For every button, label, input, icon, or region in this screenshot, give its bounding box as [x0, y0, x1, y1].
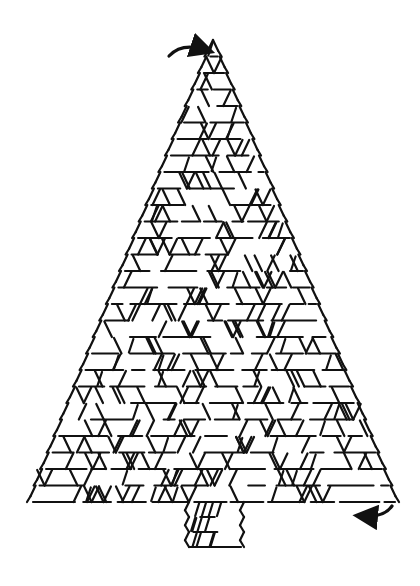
maze-wall: [217, 503, 221, 516]
maze-wall: [197, 533, 201, 546]
maze-wall: [203, 140, 210, 156]
tree-edge-left: [96, 321, 101, 332]
maze-wall: [223, 91, 230, 107]
trunk-edge-right: [240, 517, 244, 525]
maze-wall: [320, 422, 325, 436]
maze-wall: [263, 190, 270, 206]
maze-wall: [275, 272, 283, 288]
maze-wall: [191, 355, 198, 371]
tree-edge-left: [123, 255, 128, 266]
tree-edge-left: [57, 420, 62, 431]
trunk-edge-right: [240, 502, 244, 510]
maze-wall: [184, 158, 189, 172]
exit-arrow-icon: [362, 506, 392, 516]
maze-wall: [147, 421, 154, 437]
tree-edge-left: [31, 486, 36, 497]
tree-edge-right: [279, 205, 284, 216]
tree-edge-left: [90, 337, 95, 348]
maze-wall: [223, 190, 230, 206]
tree-edge-left: [70, 387, 75, 398]
maze-wall: [123, 471, 127, 485]
maze-wall: [195, 239, 202, 255]
maze-wall: [337, 437, 344, 453]
tree-edge-right: [390, 486, 395, 497]
maze-wall: [240, 421, 247, 437]
maze-wall: [311, 455, 316, 469]
maze-wall: [93, 454, 101, 470]
maze-wall: [195, 503, 199, 516]
maze-wall: [209, 124, 216, 140]
maze-wall: [129, 339, 134, 353]
maze-wall: [272, 305, 279, 321]
maze-wall: [178, 190, 185, 206]
tree-edge-left: [201, 57, 206, 68]
tree-edge-right: [377, 453, 382, 464]
tree-maze-body: [27, 40, 399, 502]
maze-wall: [157, 239, 164, 255]
maze-wall: [265, 404, 272, 420]
trunk-edge-left: [185, 510, 189, 517]
maze-wall: [236, 388, 243, 404]
tree-edge-left: [50, 436, 55, 447]
tree-edge-left: [169, 139, 174, 150]
maze-wall: [198, 518, 202, 531]
maze-wall: [213, 305, 220, 321]
tree-edge-left: [129, 238, 134, 249]
maze-wall: [173, 488, 178, 502]
maze-wall: [267, 338, 275, 354]
maze-wall: [168, 404, 176, 420]
tree-edge-right: [266, 172, 271, 183]
maze-wall: [278, 421, 285, 437]
maze-wall: [232, 108, 237, 122]
trunk-edge-right: [240, 510, 244, 517]
maze-wall: [226, 322, 233, 338]
maze-wall: [284, 355, 291, 371]
trunk-edge-left: [185, 517, 189, 525]
tree-edge-left: [116, 271, 121, 282]
entry-arrow-icon: [169, 47, 206, 56]
maze-wall: [233, 273, 238, 287]
maze-wall: [306, 338, 313, 354]
maze-wall: [122, 487, 130, 503]
tree-edge-left: [155, 172, 160, 183]
maze-wall: [163, 206, 170, 222]
maze-wall: [155, 454, 162, 470]
maze-wall: [170, 239, 177, 255]
maze-wall: [280, 454, 287, 470]
tree-edge-right: [331, 337, 336, 348]
maze-wall: [178, 437, 186, 453]
maze-puzzle: [0, 0, 420, 586]
tree-edge-left: [195, 73, 200, 84]
maze-wall: [215, 173, 222, 189]
maze-wall: [104, 421, 111, 437]
maze-wall: [84, 388, 91, 404]
maze-wall: [193, 206, 201, 222]
maze-wall: [344, 437, 351, 453]
maze-wall: [278, 224, 283, 238]
maze-wall: [242, 140, 249, 156]
maze-wall: [289, 389, 294, 403]
maze-wall: [151, 488, 156, 502]
maze-wall: [193, 437, 200, 453]
maze-wall: [77, 437, 84, 453]
maze-wall: [211, 355, 218, 371]
maze-wall: [64, 437, 71, 453]
maze-wall: [259, 206, 266, 222]
tree-edge-left: [44, 453, 49, 464]
maze-wall: [313, 338, 321, 354]
maze-wall: [138, 239, 145, 255]
maze-wall: [302, 437, 309, 453]
trunk-edge-left: [185, 525, 189, 532]
maze-wall: [270, 355, 278, 371]
maze-wall: [235, 289, 243, 305]
maze-wall: [259, 223, 267, 239]
maze-wall: [198, 107, 205, 123]
maze-wall: [256, 289, 263, 305]
tree-edge-left: [83, 354, 88, 365]
tree-edge-right: [292, 238, 297, 249]
maze-wall: [203, 173, 210, 189]
maze-wall: [158, 487, 165, 503]
maze-wall: [221, 239, 228, 255]
maze-wall: [235, 140, 242, 156]
maze-wall: [335, 405, 340, 419]
